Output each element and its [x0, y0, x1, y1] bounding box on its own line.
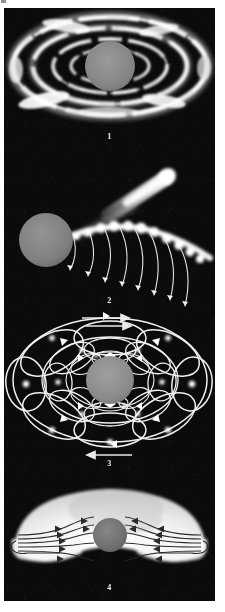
scan-artifact-speck — [1, 0, 6, 3]
panel-1-accretion-disk-rings: 1 — [4, 8, 215, 158]
figure-plate: 1 — [0, 0, 225, 612]
panel-3-bottom-flow-arrow — [87, 452, 132, 459]
panel-2-graphic — [4, 158, 215, 318]
panel-3-circulation-cells: 3 — [4, 308, 215, 473]
panel-3-graphic — [4, 308, 215, 473]
panel-4-inflow-shell: 4 — [4, 473, 215, 601]
panel-2-number: 2 — [4, 296, 215, 305]
panel-4-graphic — [4, 473, 215, 601]
panel-1-number: 1 — [4, 132, 215, 141]
panel-4-number: 4 — [4, 583, 215, 592]
panel-1-central-sphere — [85, 41, 135, 91]
panel-2-central-sphere — [19, 213, 73, 267]
panel-4-central-sphere — [93, 518, 127, 552]
dark-photographic-plate: 1 — [4, 8, 215, 601]
panel-3-number: 3 — [4, 459, 215, 468]
panel-3-central-sphere — [86, 356, 134, 404]
panel-2-jet-and-bow-shock: 2 — [4, 158, 215, 318]
